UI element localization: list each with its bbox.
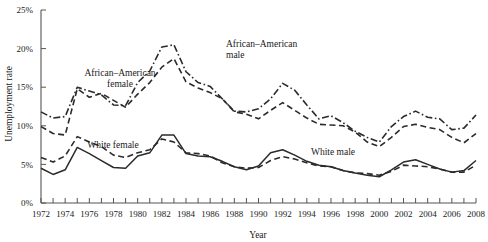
annotation-african-american-male: African–Americanmale (226, 39, 297, 60)
x-axis-tick-label: 2006 (443, 209, 462, 219)
x-axis-tick-label-group: 1972197419761978198019821984198619881990… (32, 209, 486, 219)
y-axis-tick-label: 20% (17, 44, 34, 54)
y-axis-tick-mark-group (41, 10, 46, 203)
unemployment-rate-line-chart: 0%5%10%15%20%25% 19721974197619781980198… (0, 0, 488, 242)
series-line-african-american-male (41, 45, 476, 142)
x-axis-tick-label: 1996 (322, 209, 341, 219)
y-axis-tick-label: 25% (17, 5, 34, 15)
x-axis-tick-label: 2000 (370, 209, 389, 219)
x-axis-tick-label: 1990 (250, 209, 269, 219)
annotation-white-male: White male (311, 147, 355, 157)
x-axis-tick-label: 1994 (298, 209, 317, 219)
x-axis-tick-mark-group (41, 198, 476, 203)
x-axis-tick-label: 1982 (153, 209, 171, 219)
annotation-african-american-female: African–Americanfemale (84, 68, 155, 89)
x-axis-tick-label: 1974 (56, 209, 75, 219)
annotation-white-female: White female (87, 140, 138, 150)
y-axis-tick-label-group: 0%5%10%15%20%25% (17, 5, 34, 208)
y-axis-tick-label: 0% (21, 198, 34, 208)
y-axis-tick-label: 5% (21, 160, 34, 170)
x-axis-tick-label: 1986 (201, 209, 220, 219)
y-axis-title: Unemployment rate (4, 66, 14, 142)
x-axis-tick-label: 2004 (419, 209, 438, 219)
data-series-group (41, 45, 476, 177)
y-axis-tick-label: 10% (17, 121, 34, 131)
x-axis-title: Year (249, 230, 267, 240)
x-axis-tick-label: 1992 (274, 209, 292, 219)
x-axis-tick-label: 1978 (105, 209, 124, 219)
x-axis-tick-label: 1980 (129, 209, 148, 219)
x-axis-tick-label: 2002 (395, 209, 413, 219)
y-axis-tick-label: 15% (17, 82, 34, 92)
x-axis-tick-label: 1998 (346, 209, 365, 219)
x-axis-tick-label: 2008 (467, 209, 486, 219)
x-axis-tick-label: 1984 (177, 209, 196, 219)
x-axis-tick-label: 1988 (225, 209, 244, 219)
chart-canvas: 0%5%10%15%20%25% 19721974197619781980198… (0, 0, 488, 242)
x-axis-tick-label: 1976 (80, 209, 99, 219)
x-axis-tick-label: 1972 (32, 209, 50, 219)
